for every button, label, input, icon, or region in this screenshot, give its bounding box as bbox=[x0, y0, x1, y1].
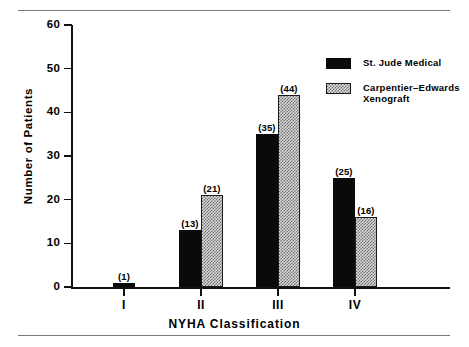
x-axis-line bbox=[71, 287, 450, 289]
x-tick-mark bbox=[277, 289, 279, 296]
y-tick-mark bbox=[64, 286, 72, 288]
y-tick-label: 10 bbox=[4, 237, 60, 249]
y-axis-title: Number of Patients bbox=[22, 46, 34, 246]
y-tick-label: 40 bbox=[4, 106, 60, 118]
x-category-label-i: I bbox=[94, 298, 154, 312]
top-divider-rule bbox=[18, 10, 450, 11]
y-tick-mark bbox=[64, 68, 72, 70]
bar-value-label: (1) bbox=[98, 271, 150, 282]
y-tick-label: 30 bbox=[4, 150, 60, 162]
y-tick-label-wrap: 50 bbox=[0, 63, 60, 64]
bar-value-label: (16) bbox=[340, 205, 392, 216]
y-tick-label-wrap: 0 bbox=[0, 281, 60, 282]
legend-label-st-jude-medical: St. Jude Medical bbox=[363, 57, 466, 68]
x-tick-mark bbox=[200, 289, 202, 296]
figure-canvas: Number of Patients NYHA Classification 0… bbox=[0, 0, 469, 347]
x-axis-title: NYHA Classification bbox=[0, 317, 469, 331]
x-tick-mark bbox=[123, 289, 125, 296]
y-tick-label-wrap: 10 bbox=[0, 237, 60, 238]
hatched-gray-swatch-icon bbox=[326, 83, 351, 94]
y-tick-label: 0 bbox=[4, 281, 60, 293]
x-category-label-ii: II bbox=[171, 298, 231, 312]
bar-iii-series-2 bbox=[278, 95, 300, 287]
bottom-divider-rule bbox=[18, 335, 450, 336]
solid-black-swatch-icon bbox=[326, 58, 351, 69]
x-category-label-iii: III bbox=[248, 298, 308, 312]
legend-label-carpentier-edwards-xenograft: Carpentier–Edwards Xenograft bbox=[363, 82, 466, 104]
bar-value-label: (25) bbox=[318, 166, 370, 177]
bar-i-series-1 bbox=[113, 283, 135, 287]
x-tick-mark bbox=[354, 289, 356, 296]
bar-iv-series-1 bbox=[333, 178, 355, 287]
y-tick-label-wrap: 40 bbox=[0, 106, 60, 107]
y-tick-mark bbox=[64, 155, 72, 157]
y-tick-label: 20 bbox=[4, 194, 60, 206]
bar-iii-series-1 bbox=[256, 134, 278, 287]
legend-item-st-jude-medical: St. Jude Medical bbox=[326, 57, 466, 75]
y-tick-mark bbox=[64, 112, 72, 114]
x-category-label-iv: IV bbox=[325, 298, 385, 312]
y-tick-label: 50 bbox=[4, 63, 60, 75]
y-tick-mark bbox=[64, 24, 72, 26]
y-tick-mark bbox=[64, 199, 72, 201]
chart-legend: St. Jude Medical Carpentier–Edwards Xeno… bbox=[326, 57, 466, 111]
y-tick-label-wrap: 20 bbox=[0, 194, 60, 195]
y-tick-mark bbox=[64, 243, 72, 245]
bar-value-label: (21) bbox=[186, 183, 238, 194]
bar-ii-series-1 bbox=[179, 230, 201, 287]
y-tick-label-wrap: 30 bbox=[0, 150, 60, 151]
bar-iv-series-2 bbox=[355, 217, 377, 287]
bar-value-label: (44) bbox=[263, 83, 315, 94]
legend-item-carpentier-edwards-xenograft: Carpentier–Edwards Xenograft bbox=[326, 82, 466, 104]
y-tick-label: 60 bbox=[4, 19, 60, 31]
bar-ii-series-2 bbox=[201, 195, 223, 287]
y-tick-label-wrap: 60 bbox=[0, 19, 60, 20]
